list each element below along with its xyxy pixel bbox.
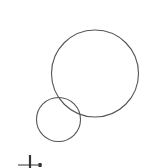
marker-dot: [39, 163, 42, 167]
axis-marker-icon: [18, 155, 42, 168]
diagram-canvas: [0, 0, 142, 168]
large-circle: [52, 30, 139, 117]
small-circle: [37, 98, 81, 142]
